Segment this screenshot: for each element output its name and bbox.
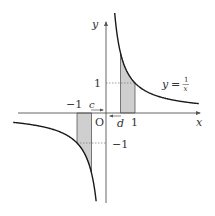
- hyperbola-diagram: y x O 1 −1 1 −1 c d y = 1 x: [0, 0, 215, 216]
- c-arrow-head-icon: [100, 109, 104, 112]
- y-axis-arrow-icon: [104, 21, 108, 26]
- tick-label-x-1: 1: [131, 116, 138, 129]
- d-arrow-head-icon: [109, 115, 113, 118]
- svg-text:=: =: [171, 78, 180, 91]
- function-label: y = 1 x: [161, 76, 189, 93]
- y-axis-label: y: [91, 18, 99, 31]
- origin-label: O: [95, 116, 104, 129]
- svg-text:x: x: [184, 85, 188, 93]
- x-axis-label: x: [196, 116, 203, 129]
- d-label: d: [117, 117, 124, 130]
- svg-text:1: 1: [184, 76, 188, 84]
- svg-text:y: y: [161, 78, 169, 91]
- tick-label-y-1: 1: [94, 77, 101, 90]
- x-axis-arrow-icon: [196, 111, 201, 115]
- c-label: c: [89, 99, 95, 110]
- tick-label-y-neg1: −1: [112, 138, 128, 151]
- tick-label-x-neg1: −1: [66, 98, 82, 111]
